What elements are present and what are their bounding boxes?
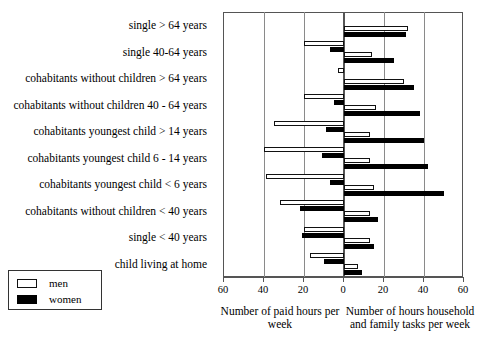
bar-right-men bbox=[344, 185, 374, 190]
bar-right-men bbox=[344, 52, 372, 57]
bar-right-men bbox=[344, 211, 370, 216]
category-label: cohabitants without children < 40 years bbox=[0, 198, 213, 225]
bar-left-men bbox=[264, 147, 344, 152]
chart-row bbox=[224, 118, 462, 145]
bar-right-men bbox=[344, 238, 370, 243]
category-label: cohabitants youngest child < 6 years bbox=[0, 171, 213, 198]
category-label: single > 64 years bbox=[0, 12, 213, 39]
chart-row bbox=[224, 145, 462, 172]
legend: men women bbox=[8, 270, 102, 310]
bar-right-women bbox=[344, 217, 378, 222]
x-axis-tick bbox=[263, 277, 264, 282]
x-axis-tick-label: 60 bbox=[448, 284, 478, 295]
bar-right-men bbox=[344, 132, 370, 137]
bar-right-women bbox=[344, 85, 414, 90]
bar-right-women bbox=[344, 244, 374, 249]
legend-label-men: men bbox=[49, 277, 68, 289]
chart-row bbox=[224, 12, 462, 39]
category-axis-labels: single > 64 yearssingle 40-64 yearscohab… bbox=[0, 12, 213, 277]
bar-left-men bbox=[280, 200, 344, 205]
chart-row bbox=[224, 65, 462, 92]
plot-area bbox=[223, 12, 463, 277]
chart-row bbox=[224, 39, 462, 66]
bar-left-men bbox=[310, 253, 344, 258]
bar-left-women bbox=[330, 180, 344, 185]
bar-right-women bbox=[344, 164, 428, 169]
x-axis-tick-label: 40 bbox=[248, 284, 278, 295]
x-axis-tick bbox=[223, 277, 224, 282]
x-axis-tick-label: 20 bbox=[368, 284, 398, 295]
bar-left-women bbox=[324, 259, 344, 264]
x-axis-tick bbox=[423, 277, 424, 282]
bar-left-women bbox=[300, 206, 344, 211]
bar-right-women bbox=[344, 111, 420, 116]
bar-right-women bbox=[344, 270, 362, 275]
bar-right-men bbox=[344, 264, 358, 269]
chart-row bbox=[224, 224, 462, 251]
category-label: single < 40 years bbox=[0, 224, 213, 251]
x-axis-tick bbox=[343, 277, 344, 282]
x-axis-tick-label: 0 bbox=[328, 284, 358, 295]
bar-left-men bbox=[274, 121, 344, 126]
bar-left-men bbox=[304, 94, 344, 99]
chart-row bbox=[224, 92, 462, 119]
bar-right-women bbox=[344, 58, 394, 63]
bar-left-women bbox=[302, 233, 344, 238]
x-axis-caption-right: Number of hours household and family tas… bbox=[344, 305, 476, 331]
bar-left-men bbox=[266, 174, 344, 179]
x-axis-tick bbox=[303, 277, 304, 282]
x-axis-tick-label: 40 bbox=[408, 284, 438, 295]
bar-left-women bbox=[330, 47, 344, 52]
bar-right-women bbox=[344, 32, 406, 37]
category-label: cohabitants youngest child > 14 years bbox=[0, 118, 213, 145]
bar-right-women bbox=[344, 138, 424, 143]
legend-swatch-women-icon bbox=[17, 295, 37, 304]
diverging-bar-chart: single > 64 yearssingle 40-64 yearscohab… bbox=[0, 0, 480, 341]
category-label: cohabitants without children > 64 years bbox=[0, 65, 213, 92]
x-axis-caption-left: Number of paid hours per week bbox=[216, 305, 344, 331]
bar-right-men bbox=[344, 105, 376, 110]
bar-right-men bbox=[344, 79, 404, 84]
bar-left-men bbox=[304, 227, 344, 232]
chart-row bbox=[224, 251, 462, 278]
x-axis-tick-label: 20 bbox=[288, 284, 318, 295]
legend-item-women: women bbox=[9, 291, 101, 307]
legend-label-women: women bbox=[49, 293, 81, 305]
bar-right-men bbox=[344, 158, 370, 163]
chart-row bbox=[224, 198, 462, 225]
category-label: cohabitants without children 40 - 64 yea… bbox=[0, 92, 213, 119]
category-label: cohabitants youngest child 6 - 14 years bbox=[0, 145, 213, 172]
bar-left-women bbox=[334, 100, 344, 105]
legend-item-men: men bbox=[9, 275, 101, 291]
category-label: single 40-64 years bbox=[0, 39, 213, 66]
bar-left-men bbox=[304, 41, 344, 46]
x-axis-tick-label: 60 bbox=[208, 284, 238, 295]
bar-left-men bbox=[338, 68, 344, 73]
bar-right-men bbox=[344, 26, 408, 31]
chart-row bbox=[224, 171, 462, 198]
x-axis-tick bbox=[463, 277, 464, 282]
legend-swatch-men-icon bbox=[17, 279, 37, 288]
bar-right-women bbox=[344, 191, 444, 196]
bar-left-women bbox=[322, 153, 344, 158]
bar-left-women bbox=[326, 127, 344, 132]
x-axis-tick bbox=[383, 277, 384, 282]
